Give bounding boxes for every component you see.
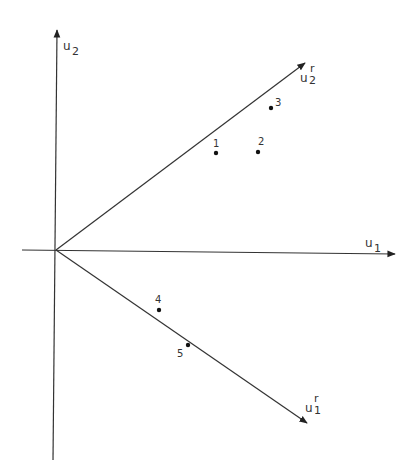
svg-text:u: u xyxy=(305,401,313,415)
svg-text:1: 1 xyxy=(314,404,321,417)
point-1: 1 xyxy=(213,138,219,155)
svg-text:r: r xyxy=(310,62,315,75)
u1-axis-label: u 1 xyxy=(365,236,381,255)
u2-axis-label: u 2 xyxy=(63,39,79,58)
point-2: 2 xyxy=(256,136,265,154)
svg-text:3: 3 xyxy=(275,97,281,108)
svg-text:r: r xyxy=(314,392,319,405)
u1-axis xyxy=(22,250,395,254)
u2r-axis xyxy=(56,63,305,250)
svg-text:u: u xyxy=(365,236,373,250)
u2-axis xyxy=(53,30,57,460)
point-3: 3 xyxy=(269,97,282,110)
svg-text:5: 5 xyxy=(177,348,183,359)
svg-text:1: 1 xyxy=(213,138,219,149)
svg-text:u: u xyxy=(63,39,71,53)
u1r-axis xyxy=(56,250,307,423)
svg-text:2: 2 xyxy=(309,74,316,87)
u2r-axis-label: u 2 r xyxy=(300,62,316,87)
svg-text:2: 2 xyxy=(72,45,79,58)
u1r-axis-label: u 1 r xyxy=(305,392,321,417)
point-4: 4 xyxy=(155,294,161,312)
diagram-canvas: u 2 u 1 u 2 r u 1 r 1 2 3 4 5 xyxy=(0,0,419,465)
svg-text:2: 2 xyxy=(258,136,264,147)
point-5: 5 xyxy=(177,343,190,359)
svg-text:4: 4 xyxy=(155,294,161,305)
svg-text:u: u xyxy=(300,71,308,85)
svg-text:1: 1 xyxy=(374,242,381,255)
